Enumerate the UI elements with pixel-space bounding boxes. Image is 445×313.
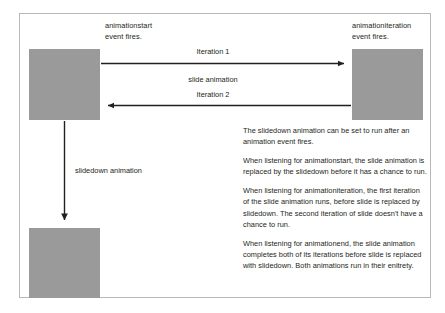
animationstart-label: animationstart event fires. (105, 20, 152, 42)
iteration-2-label: Iteration 2 (150, 90, 276, 100)
prose-paragraph: The slidedown animation can be set to ru… (243, 125, 427, 147)
prose-paragraph: When listening for animationend, the sli… (243, 238, 427, 271)
iteration-1-label: Iteration 1 (150, 47, 276, 57)
slidedown-animation-label: slidedown animation (75, 166, 142, 176)
element-slid-down-state-box (29, 228, 100, 298)
explanatory-text-block: The slidedown animation can be set to ru… (243, 125, 427, 271)
element-slid-right-state-box (352, 49, 423, 120)
prose-paragraph: When listening for animationiteration, t… (243, 185, 427, 229)
slide-animation-label: slide animation (150, 75, 276, 85)
animationiteration-label: animationiteration event fires. (352, 20, 411, 42)
prose-paragraph: When listening for animationstart, the s… (243, 155, 427, 177)
element-initial-state-box (29, 49, 100, 120)
animation-events-figure: animationstart event fires. animationite… (0, 0, 445, 313)
